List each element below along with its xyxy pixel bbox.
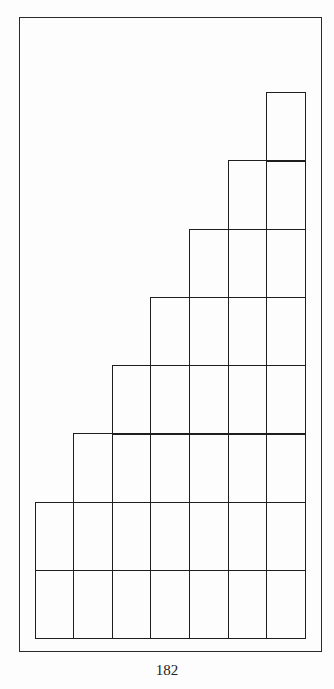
grid-cell	[228, 160, 267, 230]
grid-cell	[189, 365, 229, 435]
grid-cell	[112, 502, 151, 572]
grid-cell	[189, 297, 229, 367]
grid-cell	[228, 502, 267, 572]
grid-cell	[112, 570, 151, 640]
grid-cell	[35, 570, 74, 640]
grid-cell	[189, 502, 229, 572]
grid-cell	[228, 229, 267, 299]
grid-cell	[266, 502, 306, 572]
grid-cell	[189, 433, 229, 503]
grid-cell	[266, 433, 306, 503]
page-number: 182	[0, 662, 334, 679]
grid-cell	[266, 297, 306, 367]
grid-cell	[228, 365, 267, 435]
grid-cell	[228, 433, 267, 503]
grid-cell	[266, 92, 306, 162]
grid-cell	[150, 297, 190, 367]
grid-cell	[150, 433, 190, 503]
grid-cell	[73, 502, 113, 572]
grid-cell	[150, 365, 190, 435]
grid-cell	[150, 570, 190, 640]
grid-cell	[228, 297, 267, 367]
grid-cell	[266, 229, 306, 299]
grid-cell	[266, 570, 306, 640]
grid-cell	[266, 160, 306, 230]
grid-cell	[189, 229, 229, 299]
grid-cell	[189, 570, 229, 640]
grid-cell	[73, 570, 113, 640]
grid-cell	[150, 502, 190, 572]
grid-cell	[112, 365, 151, 435]
grid-cell	[35, 502, 74, 572]
grid-cell	[73, 433, 113, 503]
grid-cell	[112, 433, 151, 503]
grid-cell	[266, 365, 306, 435]
grid-cell	[228, 570, 267, 640]
